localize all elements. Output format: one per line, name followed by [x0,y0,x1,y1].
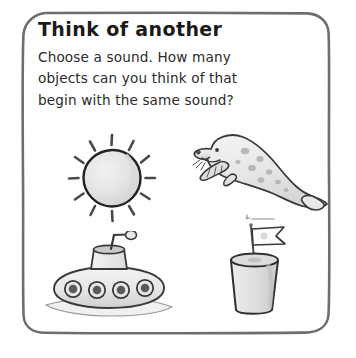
sandcastle-pole-socket [248,257,262,262]
submarine-illustration [42,231,176,323]
seal-eye [215,148,219,152]
sandcastle-illustration [210,212,320,324]
sun-illustration [60,129,164,229]
body-line-2: objects can you think of that [38,68,308,90]
sandcastle-flag-emblem [261,233,268,240]
sandcastle-pole-finial [249,223,253,227]
seal-illustration [188,122,334,224]
seal-tail-flipper [302,195,325,210]
body-line-1: Choose a sound. How many [38,47,308,69]
submarine-hatch [94,245,125,253]
card-text-block: Think of another Choose a sound. How man… [38,20,308,111]
page-title: Think of another [38,20,308,40]
sandcastle-flag [252,227,285,245]
submarine-periscope-lens [126,231,137,240]
worksheet-card: Think of another Choose a sound. How man… [0,0,356,358]
seal-nose [196,151,200,154]
seal-whiskers [193,160,205,170]
body-line-3: begin with the same sound? [38,90,308,112]
